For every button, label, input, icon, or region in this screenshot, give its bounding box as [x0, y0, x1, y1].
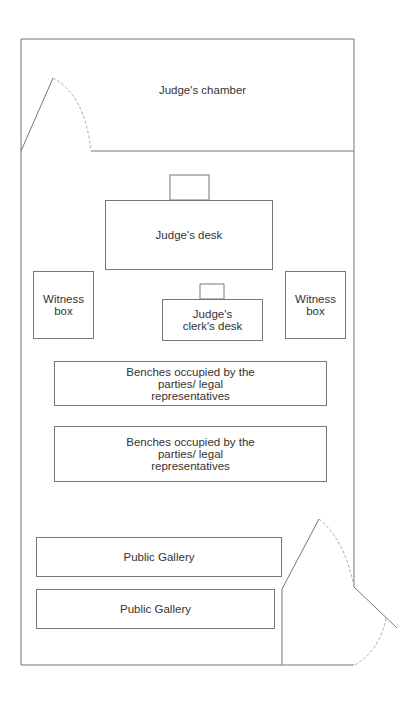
judges-chamber-label: Judge's chamber — [140, 84, 265, 96]
clerks-chair — [200, 284, 224, 299]
benches-parties-2: Benches occupied by the parties/ legal r… — [54, 426, 327, 482]
entrance-door-leaf-right[interactable] — [354, 587, 397, 628]
witness-box-right: Witness box — [285, 271, 346, 339]
witness-box-left: Witness box — [33, 271, 94, 339]
entrance-door-swing-arc-left — [319, 519, 354, 587]
entrance-door-swing-arc-right — [355, 618, 386, 665]
judges-chair — [170, 175, 209, 200]
chamber-door-leaf[interactable] — [21, 78, 53, 151]
public-gallery-2: Public Gallery — [36, 589, 275, 629]
clerks-desk: Judge's clerk's desk — [162, 299, 263, 341]
chamber-door-swing-arc — [53, 78, 91, 151]
judges-desk: Judge's desk — [105, 200, 273, 270]
benches-parties-1: Benches occupied by the parties/ legal r… — [54, 361, 327, 406]
public-gallery-1: Public Gallery — [36, 537, 282, 577]
entrance-door-leaf-left[interactable] — [282, 519, 319, 589]
